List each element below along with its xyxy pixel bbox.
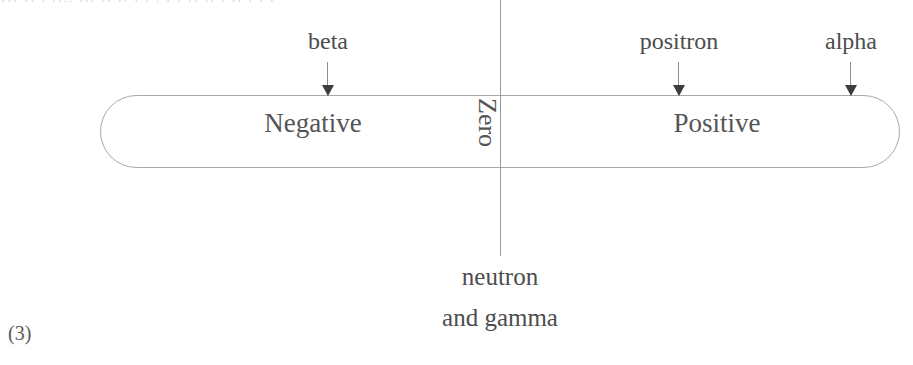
bar-label-negative: Negative — [213, 108, 413, 139]
pointer-label-positron: positron — [640, 28, 719, 55]
clipped-text-remnant: Ill Il l ll.. lll ll ll l l . l l ll ll … — [0, 0, 913, 2]
pointer-arrow-beta — [327, 62, 328, 95]
pointer-arrow-alpha — [850, 62, 851, 95]
bar-label-positive: Positive — [617, 108, 817, 139]
pointer-label-beta: beta — [308, 28, 348, 55]
pointer-arrow-positron — [678, 62, 679, 95]
bottom-label-and-gamma: and gamma — [442, 304, 558, 332]
question-number: (3) — [8, 322, 31, 345]
bottom-label-neutron: neutron — [462, 263, 538, 291]
pointer-label-alpha: alpha — [825, 28, 877, 55]
bar-label-zero: Zero — [474, 96, 500, 147]
